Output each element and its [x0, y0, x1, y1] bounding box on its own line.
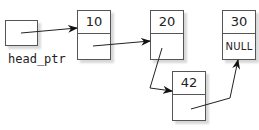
arrow-10-to-20 [93, 41, 150, 46]
arrow-head-to-10 [21, 28, 77, 33]
arrow-42-to-30 [191, 60, 238, 109]
arrow-20-to-42 [150, 48, 172, 91]
link-arrows [0, 0, 259, 130]
